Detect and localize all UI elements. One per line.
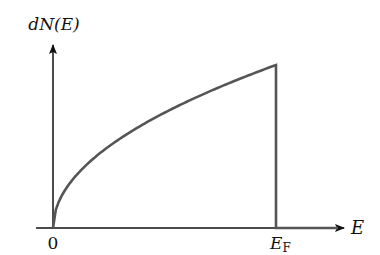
origin-label: 0 bbox=[48, 233, 59, 253]
fermi-label-main: E bbox=[269, 233, 283, 253]
x-axis-label: E bbox=[350, 217, 364, 238]
distribution-curve bbox=[53, 65, 338, 228]
fermi-energy-label: EF bbox=[269, 233, 291, 255]
y-axis-label: dN(E) bbox=[28, 14, 79, 34]
fermi-label-subscript: F bbox=[282, 241, 290, 255]
density-of-states-diagram: dN(E) E 0 EF bbox=[0, 0, 380, 255]
